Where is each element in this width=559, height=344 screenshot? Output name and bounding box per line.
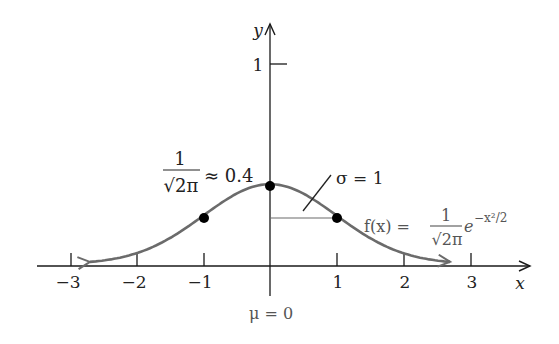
- formula-e: e: [464, 217, 473, 236]
- mu-label: μ = 0: [249, 304, 293, 323]
- x-tick-label: −3: [55, 272, 80, 292]
- x-tick-label: 3: [467, 272, 478, 292]
- peak-denominator: √2π: [164, 175, 199, 196]
- sigma-pointer: [303, 175, 331, 211]
- formula-exponent: −x²/2: [474, 211, 507, 225]
- formula-denominator: √2π: [432, 230, 463, 249]
- normal-distribution-chart: −3 −2 −1 1 2 3 1 y x 1 √2π ≈ 0.4 σ = 1 f…: [0, 0, 559, 344]
- x-tick-label: 1: [333, 272, 344, 292]
- y-tick-label: 1: [253, 55, 264, 75]
- y-axis-label: y: [252, 20, 263, 40]
- formula-numerator: 1: [441, 206, 451, 225]
- density-formula: f(x) = 1 √2π e −x²/2: [364, 206, 507, 249]
- formula-lhs: f(x) =: [364, 217, 410, 236]
- sigma-label: σ = 1: [336, 168, 383, 188]
- x-tick-label: −1: [187, 272, 212, 292]
- peak-approx: ≈ 0.4: [204, 165, 253, 186]
- x-tick-label: −2: [121, 272, 146, 292]
- x-tick-label: 2: [400, 272, 411, 292]
- x-tick-labels: −3 −2 −1 1 2 3: [55, 272, 477, 292]
- peak-numerator: 1: [174, 148, 185, 169]
- x-axis-label: x: [515, 273, 525, 293]
- peak-label: 1 √2π ≈ 0.4: [163, 148, 253, 196]
